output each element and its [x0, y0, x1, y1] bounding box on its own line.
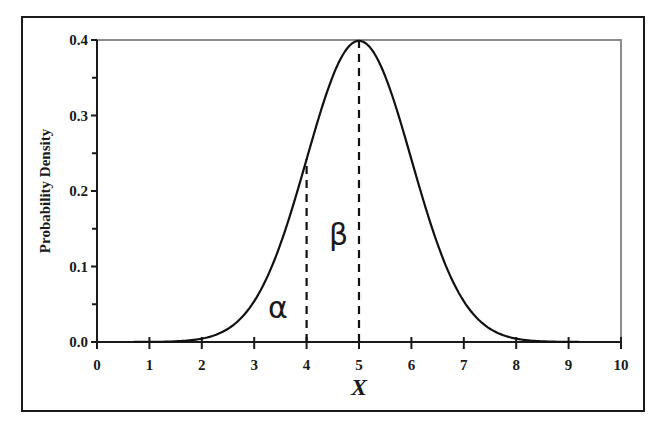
- x-tick-label: 5: [355, 357, 363, 373]
- x-tick-label: 10: [614, 357, 629, 373]
- reference-lines: [307, 41, 359, 342]
- x-tick-label: 1: [146, 357, 154, 373]
- x-tick-label: 6: [408, 357, 416, 373]
- y-tick-label: 0.2: [69, 183, 88, 199]
- y-tick-label: 0.3: [69, 108, 88, 124]
- y-tick-label: 0.0: [69, 334, 88, 350]
- y-tick-label: 0.4: [69, 32, 88, 48]
- x-tick-label: 4: [303, 357, 311, 373]
- x-tick-label: 0: [93, 357, 101, 373]
- x-tick-label: 9: [565, 357, 573, 373]
- x-axis-title: X: [350, 374, 368, 400]
- x-tick-label: 3: [250, 357, 258, 373]
- chart: 0.00.10.20.30.4 012345678910 Probability…: [0, 0, 658, 431]
- y-axis-title: Probability Density: [37, 128, 53, 253]
- density-curve: [134, 41, 579, 342]
- beta-label: β: [329, 217, 348, 252]
- y-ticks: 0.00.10.20.30.4: [69, 32, 97, 350]
- x-tick-label: 2: [198, 357, 206, 373]
- y-tick-label: 0.1: [69, 259, 88, 275]
- alpha-label: α: [268, 290, 288, 325]
- x-tick-label: 8: [512, 357, 520, 373]
- x-tick-label: 7: [460, 357, 468, 373]
